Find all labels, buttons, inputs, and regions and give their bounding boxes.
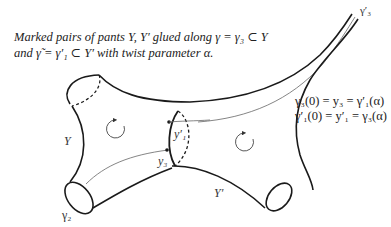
equation-line-2: γ′₁(0) = y′₁ = γ₃(α) — [295, 109, 387, 124]
left-rotation-icon — [107, 120, 125, 138]
left-pants-waist — [70, 106, 84, 182]
label-pants-right: Y′ — [214, 186, 223, 201]
right-rotation-icon — [236, 133, 254, 151]
gluing-curve — [165, 111, 210, 166]
caption-line-1: Marked pairs of pants Y, Y′ glued along … — [14, 29, 268, 45]
gamma2-tube — [59, 150, 172, 219]
equation-line-1: γ₃(0) = y₃ = γ′₁(α) — [295, 94, 387, 109]
left-pants-top-cuff — [67, 75, 100, 106]
pants-gluing-figure: Marked pairs of pants Y, Y′ glued along … — [0, 0, 391, 227]
label-y1-prime: y′₁ — [174, 127, 186, 142]
equations: γ₃(0) = y₃ = γ′₁(α) γ′₁(0) = y′₁ = γ₃(α) — [295, 94, 387, 124]
figure-caption: Marked pairs of pants Y, Y′ glued along … — [14, 29, 268, 61]
caption-line-2: and γ̃ = γ′₁ ⊂ Y′ with twist parameter α… — [14, 45, 268, 61]
point-y3-marker — [165, 148, 169, 152]
label-gamma2: γ₂ — [62, 208, 72, 223]
label-y3: y₃ — [158, 154, 168, 169]
label-gamma3-prime: γ′₃ — [360, 4, 371, 16]
label-pants-left: Y — [64, 134, 71, 149]
right-pants-bottom-cuff — [261, 178, 297, 215]
